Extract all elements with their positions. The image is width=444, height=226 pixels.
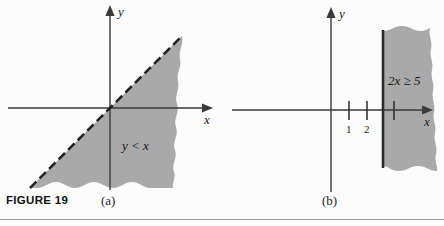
bottom-divider bbox=[0, 219, 444, 220]
y-axis-arrow-b bbox=[326, 7, 335, 18]
y-axis-arrow-a bbox=[105, 5, 114, 16]
tick-label-1-b: 1 bbox=[346, 123, 352, 135]
region-label-a: y < x bbox=[120, 138, 149, 153]
tick-label-2-b: 2 bbox=[364, 123, 370, 135]
x-axis-label-a: x bbox=[203, 112, 210, 127]
region-label-b: 2x ≥ 5 bbox=[388, 73, 421, 88]
panel-a-sublabel: (a) bbox=[101, 193, 115, 209]
shaded-region-b bbox=[383, 26, 437, 171]
y-axis-label-a: y bbox=[116, 4, 124, 19]
y-axis-label-b: y bbox=[337, 6, 345, 21]
figure-19: x y y < x 1 2 x y 2x ≥ 5 FIGURE 19 (a) (… bbox=[0, 0, 444, 226]
x-axis-label-b: x bbox=[423, 114, 430, 129]
panel-b-sublabel: (b) bbox=[322, 193, 337, 209]
figure-caption: FIGURE 19 bbox=[6, 194, 68, 206]
